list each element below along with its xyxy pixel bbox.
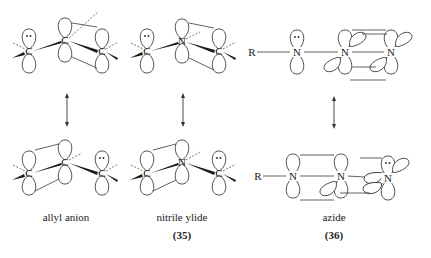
- caption-azide: azide: [322, 211, 345, 223]
- lone-pair-dot: [26, 35, 28, 37]
- allyl-anion-top: C C C: [12, 12, 118, 73]
- compound-number-35: (35): [173, 229, 192, 242]
- nitrile-ylide-bottom: C N C: [130, 140, 236, 195]
- atom-label: C: [215, 167, 222, 179]
- atom-label: C: [143, 45, 150, 57]
- atom-label: N: [384, 172, 392, 184]
- substituent-r: R: [254, 170, 262, 182]
- atom-label: N: [293, 46, 301, 58]
- atom-label: N: [387, 46, 395, 58]
- atom-label: N: [341, 46, 349, 58]
- allyl-anion-bottom: C C C: [12, 140, 118, 195]
- nitrile-ylide-top: C N C: [130, 19, 236, 73]
- atom-label: N: [337, 170, 345, 182]
- caption-allyl-anion: allyl anion: [43, 211, 90, 223]
- resonance-arrow-allyl: [65, 93, 69, 127]
- azide-top: R N N N: [248, 30, 412, 80]
- substituent-r: R: [248, 46, 256, 58]
- atom-label: C: [215, 45, 222, 57]
- resonance-arrow-nitrile-ylide: [181, 93, 185, 127]
- atom-label: C: [61, 34, 68, 46]
- compound-number-36: (36): [325, 229, 344, 242]
- resonance-arrow-azide: [332, 96, 336, 129]
- azide-bottom: R N N N: [254, 154, 409, 200]
- atom-label: C: [25, 45, 32, 57]
- atom-label: N: [289, 170, 297, 182]
- wedge-bond: [33, 41, 62, 51]
- atom-label: C: [98, 45, 105, 57]
- orbital-resonance-diagram: C C C C N C R: [0, 0, 431, 258]
- atom-label: C: [25, 167, 32, 179]
- atom-label: C: [98, 167, 105, 179]
- atom-label: C: [143, 167, 150, 179]
- atom-label: N: [178, 156, 186, 168]
- atom-label: N: [178, 35, 186, 47]
- caption-nitrile-ylide: nitrile ylide: [156, 211, 207, 223]
- atom-label: C: [61, 156, 68, 168]
